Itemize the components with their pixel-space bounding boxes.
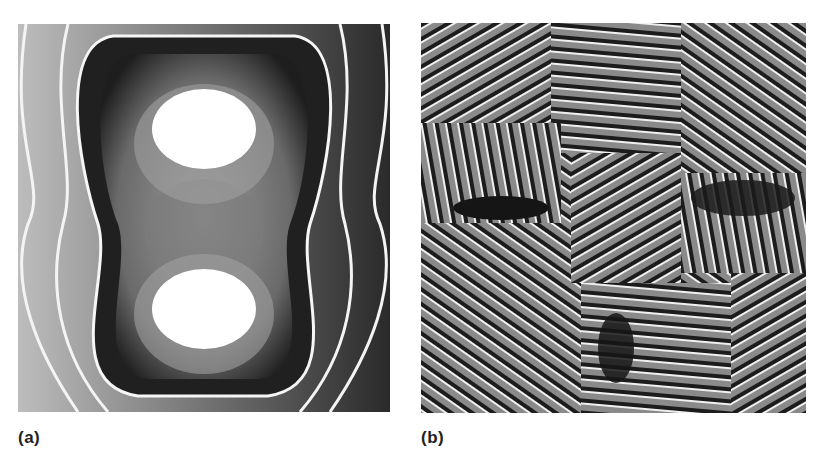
figure-panel-b — [421, 23, 806, 413]
figure-panel-a — [18, 24, 390, 412]
phase-map-a-image — [18, 24, 390, 412]
panel-a-label: (a) — [18, 428, 40, 448]
panel-b-label: (b) — [421, 428, 444, 448]
phase-map-b-image — [421, 23, 806, 413]
